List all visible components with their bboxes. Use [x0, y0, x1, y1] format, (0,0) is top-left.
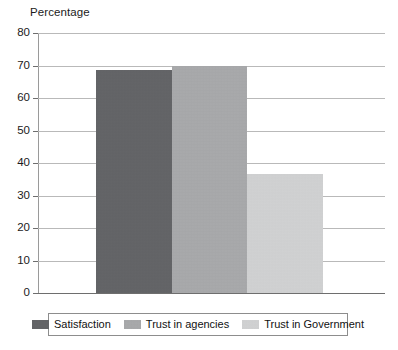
y-axis-label-50: 50	[0, 125, 30, 137]
legend-item-3[interactable]: Trust in Government	[242, 319, 364, 330]
y-axis-label-80: 80	[0, 27, 30, 39]
legend-swatch-icon	[32, 320, 49, 329]
y-axis-label-60: 60	[0, 92, 30, 104]
axis-baseline	[38, 293, 385, 294]
bar-1	[96, 70, 172, 293]
legend-swatch-icon	[124, 320, 141, 329]
chart-legend: SatisfactionTrust in agenciesTrust in Go…	[48, 313, 348, 336]
legend-swatch-texture	[242, 320, 259, 329]
bar-fill	[247, 174, 323, 293]
bar-fill	[172, 66, 248, 294]
plot-area	[38, 33, 385, 293]
legend-label: Trust in Government	[264, 319, 364, 330]
y-axis-label-20: 20	[0, 222, 30, 234]
bar-chart: Percentage 80706050403020100 Satisfactio…	[0, 0, 398, 350]
legend-swatch-icon	[242, 320, 259, 329]
y-axis-label-30: 30	[0, 190, 30, 202]
bar-2	[172, 66, 248, 294]
y-axis-label-0: 0	[0, 287, 30, 299]
bar-series	[38, 33, 385, 293]
legend-label: Trust in agencies	[146, 319, 229, 330]
y-axis-label-10: 10	[0, 255, 30, 267]
legend-swatch-texture	[32, 320, 49, 329]
legend-item-2[interactable]: Trust in agencies	[124, 319, 229, 330]
bar-3	[247, 174, 323, 293]
legend-label: Satisfaction	[54, 319, 111, 330]
legend-swatch-texture	[124, 320, 141, 329]
chart-axis-title: Percentage	[30, 6, 90, 18]
y-axis-label-70: 70	[0, 60, 30, 72]
y-axis-label-40: 40	[0, 157, 30, 169]
bar-fill	[96, 70, 172, 293]
legend-item-1[interactable]: Satisfaction	[32, 319, 111, 330]
